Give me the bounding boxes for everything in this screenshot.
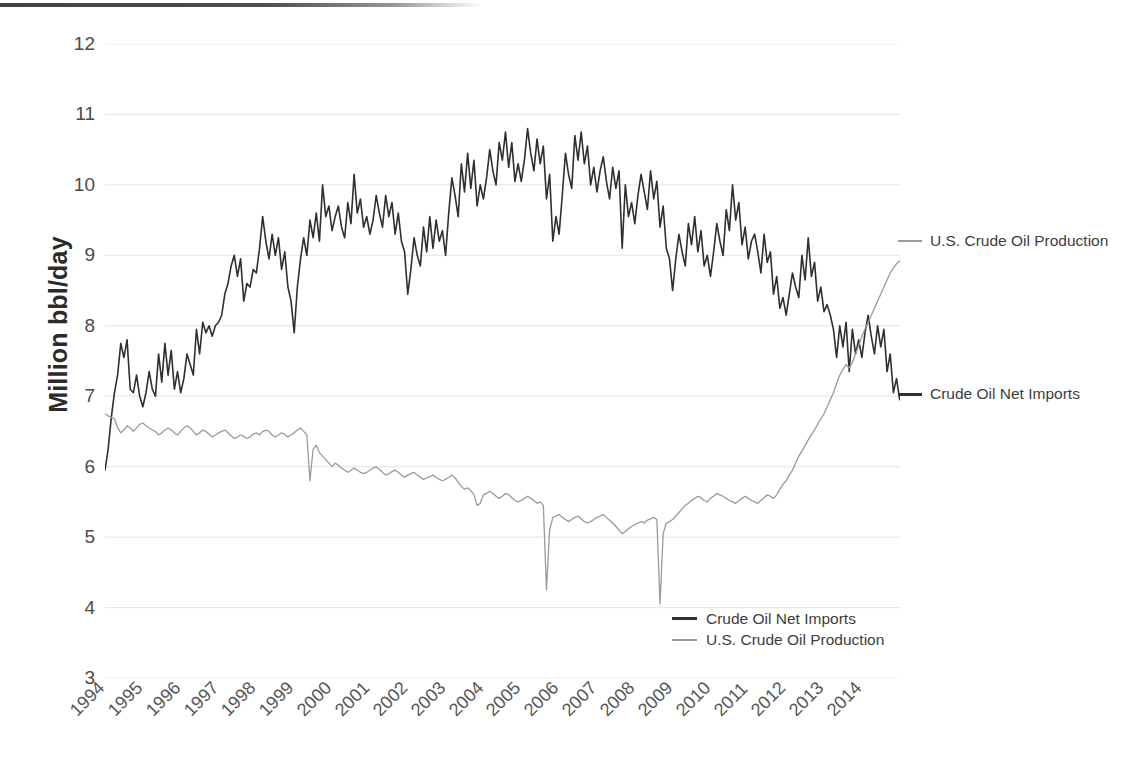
series-lines <box>105 129 900 605</box>
x-tick-label: 2002 <box>369 678 410 719</box>
x-tick-label: 2009 <box>634 678 675 719</box>
x-tick-label: 2012 <box>748 678 789 719</box>
x-tick-label: 2008 <box>597 678 638 719</box>
gridlines <box>105 44 900 678</box>
y-tick-label: 6 <box>55 457 95 476</box>
x-tick-label: 2007 <box>559 678 600 719</box>
x-tick-label: 2011 <box>710 679 750 719</box>
x-tick-label: 1998 <box>218 678 259 719</box>
chart-canvas <box>105 44 900 678</box>
legend-line-icon-imports <box>672 617 697 620</box>
x-tick-label: 2005 <box>483 678 524 719</box>
x-tick-label: 1997 <box>180 678 221 719</box>
x-tick-label: 2014 <box>824 678 865 719</box>
chart-legend: Crude Oil Net Imports U.S. Crude Oil Pro… <box>672 608 884 650</box>
legend-label-production: U.S. Crude Oil Production <box>706 631 884 649</box>
y-tick-label: 5 <box>55 527 95 546</box>
y-tick-label: 10 <box>55 175 95 194</box>
y-tick-label: 7 <box>55 386 95 405</box>
x-tick-label: 1996 <box>142 678 183 719</box>
legend-item-production: U.S. Crude Oil Production <box>672 629 884 650</box>
scan-edge-artifact <box>0 3 482 7</box>
x-tick-label: 2010 <box>672 678 713 719</box>
callout-label-imports: Crude Oil Net Imports <box>930 385 1080 403</box>
y-tick-label: 8 <box>55 316 95 335</box>
series-line-crude-oil-net-imports <box>105 129 900 471</box>
series-callout-production: U.S. Crude Oil Production <box>898 232 1108 250</box>
legend-item-imports: Crude Oil Net Imports <box>672 608 884 629</box>
callout-line-icon-imports <box>898 393 922 396</box>
chart-figure: Million bbl/day 3456789101112 1994199519… <box>0 0 1139 759</box>
callout-label-production: U.S. Crude Oil Production <box>930 232 1108 250</box>
y-tick-label: 9 <box>55 245 95 264</box>
x-tick-label: 1995 <box>104 678 145 719</box>
x-tick-label: 2001 <box>332 678 373 719</box>
x-tick-label: 1999 <box>256 678 297 719</box>
legend-line-icon-production <box>672 639 697 641</box>
x-tick-label: 2006 <box>521 678 562 719</box>
plot-area <box>105 44 900 678</box>
x-tick-label: 2013 <box>786 678 827 719</box>
x-tick-label: 2004 <box>445 678 486 719</box>
y-tick-label: 11 <box>55 104 95 123</box>
x-tick-label: 2003 <box>407 678 448 719</box>
series-callout-imports: Crude Oil Net Imports <box>898 385 1080 403</box>
y-tick-label: 4 <box>55 598 95 617</box>
y-tick-label: 12 <box>55 34 95 53</box>
legend-label-imports: Crude Oil Net Imports <box>706 610 856 628</box>
callout-line-icon-production <box>898 240 922 242</box>
x-tick-label: 2000 <box>294 678 335 719</box>
